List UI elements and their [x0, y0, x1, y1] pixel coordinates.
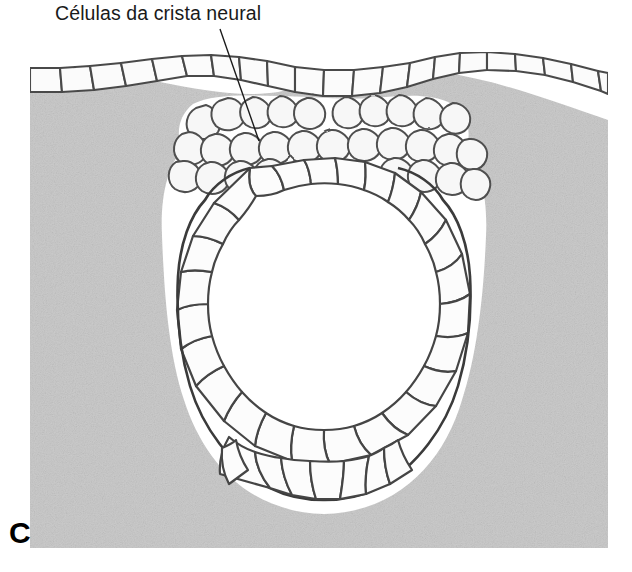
figure-panel: Células da crista neural C	[0, 0, 632, 572]
plate-grain-overlay	[30, 52, 608, 548]
neural-crest-cells-label: Células da crista neural	[55, 1, 261, 25]
histology-illustration	[0, 0, 632, 572]
panel-letter-c: C	[9, 518, 31, 548]
